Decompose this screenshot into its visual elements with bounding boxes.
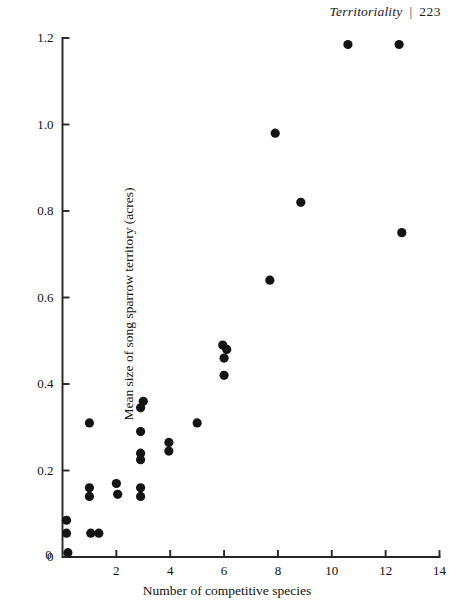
data-point (222, 345, 231, 354)
tick-marks (63, 38, 440, 557)
x-tick-label: 8 (275, 563, 282, 579)
y-tick-label: 1.0 (0, 117, 54, 133)
x-tick-label: 4 (167, 563, 174, 579)
data-point (63, 548, 72, 557)
data-point (86, 529, 95, 538)
data-point (136, 492, 145, 501)
x-tick-label: 14 (433, 563, 446, 579)
data-point (193, 418, 202, 427)
data-point (62, 529, 71, 538)
y-axis-title: Mean size of song sparrow territory (acr… (121, 187, 137, 420)
x-tick-label: 0 (45, 547, 52, 563)
data-point (296, 198, 305, 207)
data-point (271, 129, 280, 138)
page: Territoriality | 223 00.20.40.60.81.01.2… (0, 0, 454, 607)
data-point (397, 228, 406, 237)
data-point (136, 427, 145, 436)
data-point (85, 483, 94, 492)
x-tick-label: 2 (113, 563, 120, 579)
y-tick-label: 0.8 (0, 203, 54, 219)
data-point (343, 40, 352, 49)
axes (63, 38, 440, 557)
scatter-plot: 00.20.40.60.81.01.202468101214 Mean size… (0, 0, 454, 607)
data-point (136, 403, 145, 412)
data-points (62, 40, 406, 557)
data-point (136, 483, 145, 492)
data-point (164, 446, 173, 455)
data-point (113, 490, 122, 499)
data-point (219, 371, 228, 380)
data-point (85, 492, 94, 501)
x-tick-label: 10 (325, 563, 338, 579)
data-point (112, 479, 121, 488)
x-tick-label: 12 (379, 563, 392, 579)
data-point (265, 276, 274, 285)
y-tick-label: 1.2 (0, 30, 54, 46)
data-point (219, 353, 228, 362)
data-point (62, 516, 71, 525)
y-tick-label: 0.4 (0, 376, 54, 392)
plot-canvas (0, 0, 454, 607)
data-point (85, 418, 94, 427)
x-tick-label: 6 (221, 563, 228, 579)
data-point (395, 40, 404, 49)
x-axis-title: Number of competitive species (0, 583, 454, 599)
y-tick-label: 0.6 (0, 290, 54, 306)
data-point (94, 529, 103, 538)
y-tick-label: 0.2 (0, 463, 54, 479)
data-point (164, 438, 173, 447)
data-point (136, 455, 145, 464)
